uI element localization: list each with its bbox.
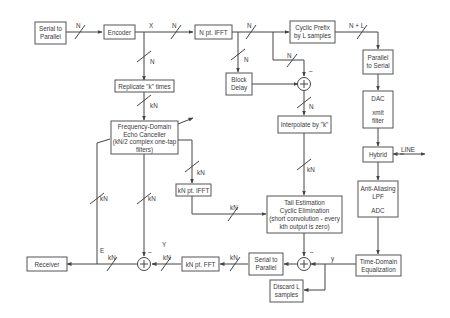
label-line: LINE bbox=[401, 146, 415, 153]
svg-text:filter: filter bbox=[372, 117, 384, 124]
svg-text:Serial to: Serial to bbox=[39, 25, 63, 32]
svg-text:Hybrid: Hybrid bbox=[369, 151, 388, 159]
svg-text:by L samples: by L samples bbox=[294, 32, 331, 40]
svg-text:Echo Canceller: Echo Canceller bbox=[123, 131, 166, 138]
svg-text:kN pt. FFT: kN pt. FFT bbox=[186, 261, 216, 269]
label-n-encoder-ifft: N bbox=[172, 22, 177, 29]
label-n-sum: N bbox=[287, 52, 292, 59]
summing-junction-tail-cancel bbox=[298, 258, 311, 271]
svg-text:Replicate "k" times: Replicate "k" times bbox=[118, 83, 170, 91]
block-time-domain-equalization: Time-Domain Equalization bbox=[356, 255, 401, 276]
block-interpolate-by-k: Interpolate by "k" bbox=[278, 116, 331, 133]
svg-text:LPF: LPF bbox=[372, 193, 384, 200]
summing-junction-echo-cancel bbox=[138, 258, 151, 271]
label-n-replicate: N bbox=[150, 58, 155, 65]
block-serial-to-parallel-tx: Serial to Parallel bbox=[35, 22, 66, 44]
svg-text:samples: samples bbox=[275, 291, 298, 299]
label-minus-lower: – bbox=[148, 248, 152, 255]
label-kn-error: kN bbox=[100, 195, 108, 202]
block-frequency-domain-echo-canceller: Frequency-Domain Echo Canceller (kN/2 co… bbox=[111, 121, 178, 154]
svg-text:Cyclic Prefix: Cyclic Prefix bbox=[295, 24, 330, 32]
svg-text:Tail Estimation: Tail Estimation bbox=[284, 199, 325, 206]
label-kn-sp: kN bbox=[230, 254, 238, 261]
label-n-plus-l: N + L bbox=[349, 22, 365, 29]
label-n-interp: N bbox=[309, 103, 314, 110]
svg-text:Serial to: Serial to bbox=[254, 256, 278, 263]
svg-text:Delay: Delay bbox=[231, 84, 248, 92]
label-kn-knifft: kN bbox=[197, 169, 205, 176]
svg-text:Cyclic Elimination: Cyclic Elimination bbox=[280, 207, 330, 215]
svg-text:Parallel: Parallel bbox=[368, 54, 389, 61]
label-kn-replicate: kN bbox=[150, 102, 158, 109]
svg-text:Receiver: Receiver bbox=[35, 261, 60, 268]
svg-text:Equalization: Equalization bbox=[361, 266, 396, 274]
label-kn-receiver: kN bbox=[108, 254, 116, 261]
label-e: E bbox=[100, 247, 104, 254]
svg-text:(short convolution - every: (short convolution - every bbox=[269, 215, 341, 223]
svg-text:kth output is zero): kth output is zero) bbox=[279, 223, 329, 231]
block-tail-estimation: Tail Estimation Cyclic Elimination (shor… bbox=[267, 196, 342, 233]
svg-text:Anti-Aliasing: Anti-Aliasing bbox=[361, 185, 396, 193]
block-hybrid: Hybrid bbox=[363, 147, 393, 162]
svg-text:Parallel: Parallel bbox=[256, 264, 277, 271]
svg-text:Discard L: Discard L bbox=[273, 283, 300, 290]
svg-text:Block: Block bbox=[231, 76, 247, 83]
block-anti-aliasing-lpf-adc: Anti-Aliasing LPF ADC bbox=[358, 181, 398, 217]
label-kn-echo: kN bbox=[148, 195, 156, 202]
svg-text:filters): filters) bbox=[136, 146, 153, 154]
label-x: X bbox=[149, 22, 154, 29]
svg-text:xmit: xmit bbox=[372, 109, 384, 116]
svg-text:Parallel: Parallel bbox=[40, 33, 61, 40]
label-kn-tail: kN bbox=[230, 204, 238, 211]
block-kn-ifft: kN pt. IFFT bbox=[176, 184, 211, 196]
label-kn-interp: kN bbox=[307, 166, 315, 173]
label-minus-rx: – bbox=[310, 248, 314, 255]
block-cyclic-prefix: Cyclic Prefix by L samples bbox=[290, 21, 335, 43]
svg-text:kN pt. IFFT: kN pt. IFFT bbox=[178, 187, 210, 195]
svg-text:ADC: ADC bbox=[371, 207, 385, 214]
wire-cp-ps bbox=[335, 32, 378, 49]
block-replicate-k-times: Replicate "k" times bbox=[115, 80, 174, 92]
dmt-echo-canceller-diagram: N X N N N N N – N N + L LINE kN kN kN kN… bbox=[0, 0, 450, 318]
svg-text:N pt. IFFT: N pt. IFFT bbox=[199, 29, 227, 37]
label-y-upper: Y bbox=[162, 241, 167, 248]
block-n-ifft: N pt. IFFT bbox=[195, 25, 232, 39]
wire-knifft-tail bbox=[192, 196, 266, 214]
label-kn-fft: kN bbox=[163, 254, 171, 261]
label-y-lower: y bbox=[331, 255, 335, 263]
block-discard-l-samples: Discard L samples bbox=[270, 280, 303, 302]
block-parallel-to-serial: Parallel to Serial bbox=[363, 50, 393, 74]
label-n-sp-encoder: N bbox=[76, 22, 81, 29]
adaptation-arrow bbox=[178, 118, 193, 124]
block-kn-fft: kN pt. FFT bbox=[182, 257, 219, 271]
label-minus-top: – bbox=[309, 67, 313, 74]
svg-text:Encoder: Encoder bbox=[108, 29, 131, 36]
block-encoder: Encoder bbox=[104, 25, 135, 39]
summing-junction-tx-diff bbox=[298, 78, 311, 91]
block-block-delay: Block Delay bbox=[226, 73, 252, 95]
block-serial-to-parallel-rx: Serial to Parallel bbox=[249, 253, 283, 275]
svg-text:DAC: DAC bbox=[371, 95, 385, 102]
wire-fdec-knifft bbox=[178, 140, 192, 183]
svg-text:Interpolate by "k": Interpolate by "k" bbox=[281, 121, 329, 129]
block-receiver: Receiver bbox=[27, 257, 67, 271]
svg-text:Time-Domain: Time-Domain bbox=[360, 258, 398, 265]
svg-text:to Serial: to Serial bbox=[366, 62, 389, 69]
label-n-blockdelay: N bbox=[244, 56, 249, 63]
block-dac: DAC xmit filter bbox=[363, 91, 393, 128]
label-n-ifft-cp: N bbox=[247, 22, 252, 29]
